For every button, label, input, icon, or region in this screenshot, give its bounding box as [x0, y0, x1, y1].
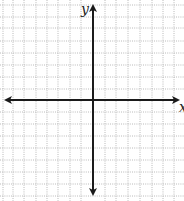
y-axis-label: y [80, 1, 90, 17]
x-axis-label: x [179, 99, 184, 115]
coordinate-plane: y x [0, 0, 184, 201]
